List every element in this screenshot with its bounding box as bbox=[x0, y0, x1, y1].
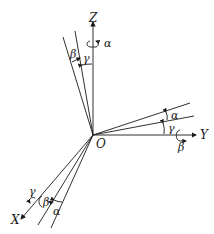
z-angle-outer-label: β bbox=[70, 49, 76, 60]
y-rotation-label: β bbox=[178, 142, 184, 153]
y-line-inner bbox=[93, 116, 194, 135]
x-rotation-icon bbox=[29, 197, 35, 203]
origin-label: O bbox=[96, 138, 106, 150]
axes-drawing bbox=[0, 0, 214, 234]
x-line-outer bbox=[38, 135, 93, 225]
x-axis-label: X bbox=[11, 214, 20, 226]
y-rotation-icon bbox=[176, 130, 186, 141]
z-angle-inner-label: γ bbox=[83, 53, 90, 64]
y-axis-label: Y bbox=[200, 129, 208, 141]
x-rotation-label: γ bbox=[29, 186, 36, 197]
x-angle-outer-label: β bbox=[43, 197, 49, 208]
z-axis-label: Z bbox=[89, 12, 97, 24]
diagram-canvas: Z α β γ O Y β α γ X γ β α bbox=[0, 0, 214, 234]
y-angle-outer-label: α bbox=[171, 110, 178, 121]
x-angle-inner-label: α bbox=[53, 206, 60, 217]
z-rotation-label: α bbox=[104, 38, 111, 49]
y-angle-inner-label: γ bbox=[168, 123, 175, 134]
